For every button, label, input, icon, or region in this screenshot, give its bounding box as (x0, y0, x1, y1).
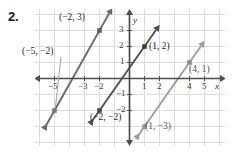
point-label-neg2-neg2: (−2, −2) (90, 113, 121, 123)
y-tick-label-neg1: −1 (116, 89, 126, 98)
y-tick-label-2: 2 (119, 41, 124, 50)
x-tick-label-neg3: −3 (78, 82, 88, 91)
point-label-neg2-3: (−2, 3) (59, 13, 85, 23)
point-label-1-neg3: (1, −3) (145, 122, 171, 132)
coordinate-plane: −5 −3 −2 1 2 4 5 3 2 1 −1 −2 y x (−2, 3)… (35, 9, 225, 146)
graph-figure: 2. (0, 0, 234, 155)
point-label-1-2: (1, 2) (149, 42, 170, 52)
x-tick-label-2: 2 (157, 82, 162, 91)
x-tick-label-5: 5 (202, 82, 207, 91)
y-tick-label-3: 3 (119, 25, 124, 34)
x-tick-label-neg2: −2 (94, 82, 104, 91)
x-tick-label-1: 1 (142, 82, 147, 91)
point-label-neg5-neg2: (−5, −2) (22, 47, 53, 57)
point-marker-neg2-3 (97, 28, 102, 33)
point-marker-1-2 (142, 44, 147, 49)
x-axis-label: x (215, 82, 219, 91)
coordinate-plane-svg (35, 9, 225, 146)
point-label-4-1: (4, 1) (189, 65, 210, 75)
problem-number: 2. (8, 10, 18, 23)
point-marker-neg5-neg2 (52, 108, 57, 113)
y-axis-label: y (133, 16, 137, 25)
x-tick-label-4: 4 (187, 82, 192, 91)
x-tick-label-neg5: −5 (48, 82, 58, 91)
y-tick-label-1: 1 (120, 57, 125, 66)
